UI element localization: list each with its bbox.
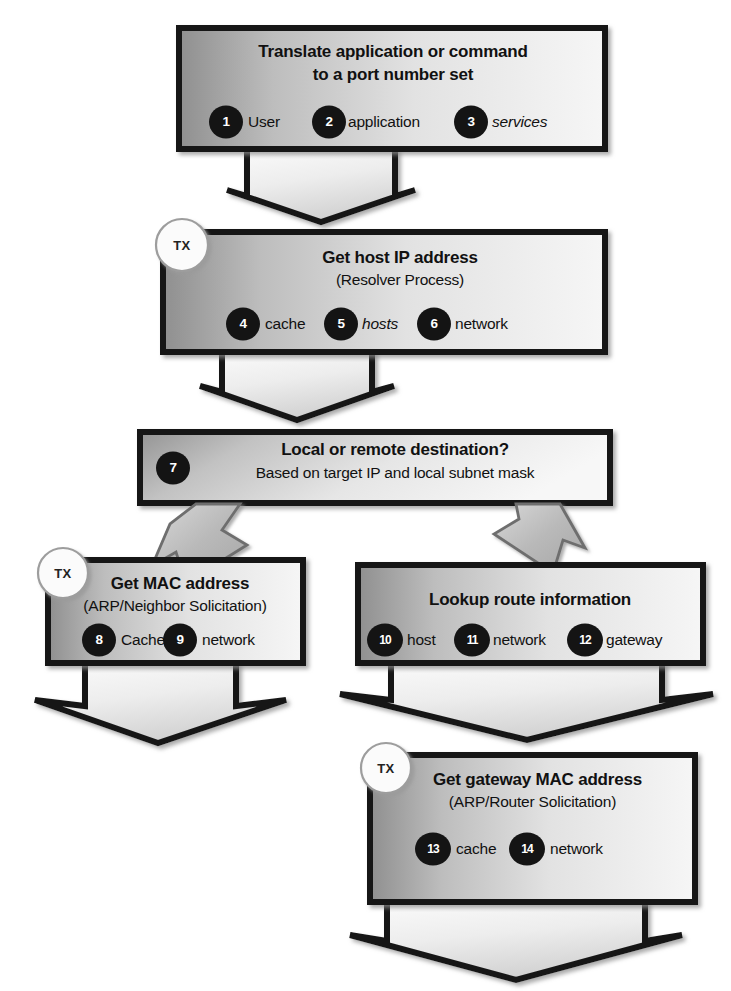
connector-route-to-gateway-mac — [340, 663, 713, 740]
node-gateway-mac-item-13-label: cache — [456, 840, 496, 858]
node-mac-item-9-label: network — [202, 631, 255, 649]
connector-translate-to-host-ip — [227, 149, 415, 222]
node-mac-item-8-label: Cache — [121, 631, 165, 649]
connector-mac-out — [35, 663, 286, 743]
node-route-item-12-label: gateway — [606, 631, 662, 649]
node-host-ip-item-4-label: cache — [265, 315, 305, 333]
node-gateway-mac-subtitle: (ARP/Router Solicitation) — [380, 793, 685, 811]
node-destination-subtitle: Based on target IP and local subnet mask — [200, 464, 590, 482]
node-mac-subtitle: (ARP/Neighbor Solicitation) — [50, 597, 300, 615]
node-gateway-mac-title: Get gateway MAC address — [390, 770, 685, 790]
node-route-title: Lookup route information — [370, 590, 690, 610]
connector-gateway-mac-out — [350, 902, 682, 980]
connector-host-ip-to-destination — [200, 352, 394, 420]
node-translate-title: Translate application or command — [198, 42, 588, 62]
node-host-ip-title: Get host IP address — [205, 248, 595, 268]
node-mac-title: Get MAC address — [60, 574, 300, 594]
badge-label-9: 9 — [170, 633, 190, 647]
node-route-item-10-label: host — [407, 631, 436, 649]
tx-badge-label-host-ip: TX — [157, 238, 207, 253]
badge-label-14: 14 — [516, 843, 538, 855]
node-host-ip-item-5-label: hosts — [362, 315, 398, 333]
node-translate-item-3-label: services — [492, 113, 547, 131]
badge-label-12: 12 — [574, 634, 596, 646]
badge-label-4: 4 — [233, 317, 253, 331]
badge-label-10: 10 — [374, 634, 396, 646]
badge-label-5: 5 — [331, 317, 351, 331]
node-host-ip-subtitle: (Resolver Process) — [205, 271, 595, 289]
node-destination-title: Local or remote destination? — [200, 440, 590, 460]
diagram-canvas: Translate application or command to a po… — [0, 0, 731, 991]
badge-label-6: 6 — [424, 317, 444, 331]
badge-label-3: 3 — [461, 115, 481, 129]
node-translate-item-2-label: application — [348, 113, 420, 131]
badge-label-7: 7 — [163, 461, 183, 475]
node-translate-title-line2: to a port number set — [198, 65, 588, 85]
node-translate-item-1-label: User — [248, 113, 280, 131]
node-gateway-mac-item-14-label: network — [550, 840, 603, 858]
node-host-ip-item-6-label: network — [455, 315, 508, 333]
badge-label-8: 8 — [89, 633, 109, 647]
diagram-shapes — [0, 0, 731, 991]
node-route-item-11-label: network — [493, 631, 546, 649]
badge-label-13: 13 — [422, 843, 444, 855]
badge-label-2: 2 — [319, 115, 339, 129]
badge-label-1: 1 — [216, 115, 236, 129]
badge-label-11: 11 — [461, 634, 483, 646]
